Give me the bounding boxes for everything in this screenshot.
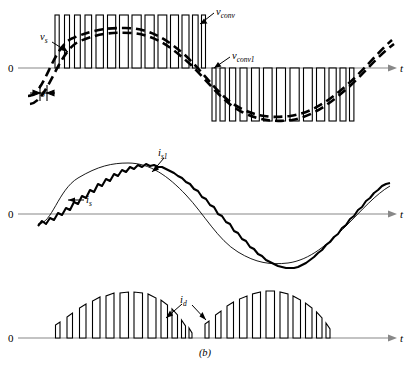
- figure-waveforms: 0 t vs vconv vconv1 δ 0 t is: [0, 0, 411, 374]
- vconv-label: vconv: [216, 6, 236, 20]
- origin-label-b: 0: [8, 208, 14, 220]
- is1-label: is1: [158, 147, 168, 161]
- is-ripple-curve: [38, 164, 390, 268]
- is-leader-arrow: [68, 197, 75, 202]
- origin-label-c: 0: [8, 332, 14, 344]
- figure-caption: (b): [199, 347, 212, 359]
- origin-label-a: 0: [8, 62, 14, 74]
- time-axis-label-c: t: [400, 332, 404, 344]
- time-axis-b: [18, 211, 397, 218]
- dc-current-panel: 0 t id: [8, 291, 404, 344]
- pwm-pulse-train-positive: [55, 15, 206, 68]
- vconv1-label: vconv1: [232, 50, 255, 64]
- vconv1-leader-arrow: [214, 62, 222, 68]
- source-current-panel: 0 t is1 is: [8, 147, 404, 268]
- pwm-pulse-train-negative: [212, 68, 354, 121]
- id-pulse-train-hump2: [205, 291, 330, 338]
- waveform-svg: 0 t vs vconv vconv1 δ 0 t is: [0, 0, 411, 374]
- time-axis-label-b: t: [400, 208, 404, 220]
- id-leader-arrow-right: [200, 312, 207, 320]
- time-axis-label-a: t: [400, 62, 404, 74]
- converter-voltage-panel: 0 t vs vconv vconv1 δ: [8, 6, 404, 121]
- is1-fundamental-curve: [38, 163, 390, 264]
- vs-label: vs: [40, 31, 48, 45]
- is-label: is: [86, 194, 92, 208]
